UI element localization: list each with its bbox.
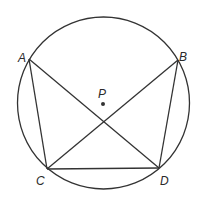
label-b: B [179, 50, 187, 64]
label-a: A [17, 51, 26, 65]
label-c: C [36, 174, 45, 188]
point-p-dot [101, 102, 105, 106]
segment-cd [47, 168, 159, 169]
segment-bd [159, 60, 178, 168]
label-p: P [98, 87, 106, 101]
segment-ad [29, 59, 159, 168]
segment-bc [47, 60, 178, 169]
label-d: D [160, 174, 169, 188]
geometry-diagram: A B C D P [0, 0, 202, 207]
segment-ac [29, 59, 47, 169]
